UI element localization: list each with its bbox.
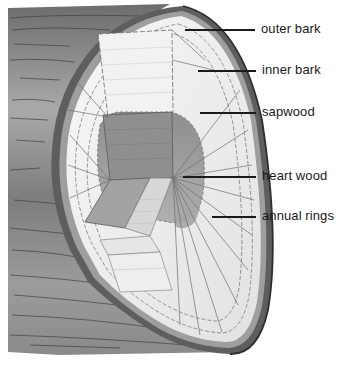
leader-line-annual-rings <box>212 216 256 218</box>
leader-line-heart-wood <box>183 176 256 178</box>
label-annual-rings: annual rings <box>262 209 334 223</box>
leader-line-outer-bark <box>185 29 255 31</box>
cut-chamber <box>98 30 173 117</box>
label-outer-bark: outer bark <box>261 22 321 36</box>
log-illustration <box>0 0 343 366</box>
leader-line-inner-bark <box>198 70 256 72</box>
log-cross-section-diagram: outer bark inner bark sapwood heart wood… <box>0 0 343 366</box>
label-inner-bark: inner bark <box>262 63 321 77</box>
label-sapwood: sapwood <box>262 105 315 119</box>
leader-line-sapwood <box>200 112 256 114</box>
label-heart-wood: heart wood <box>262 169 327 183</box>
